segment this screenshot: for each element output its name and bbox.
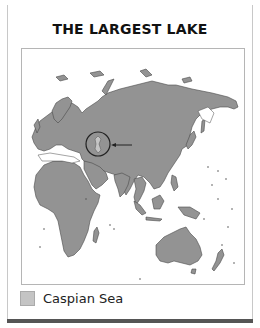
new-guinea	[178, 207, 200, 219]
tasmania	[191, 269, 196, 274]
indian-subcontinent	[114, 173, 130, 197]
legend-label: Caspian Sea	[43, 291, 123, 306]
borneo	[152, 195, 164, 209]
madagascar	[93, 227, 99, 243]
map-title: THE LARGEST LAKE	[0, 21, 260, 37]
new-siberian-islands	[182, 77, 192, 83]
new-zealand	[212, 249, 224, 271]
world-map	[22, 49, 244, 284]
svalbard	[56, 75, 68, 81]
philippines	[171, 175, 178, 191]
sakhalin	[201, 119, 205, 133]
indochina	[134, 177, 146, 205]
australia	[156, 227, 202, 265]
severnaya-zemlya	[140, 69, 152, 77]
franz-josef-land	[90, 71, 104, 77]
legend-swatch-caspian	[20, 291, 35, 306]
java	[146, 217, 162, 221]
legend: Caspian Sea	[20, 290, 123, 306]
sumatra	[134, 201, 146, 215]
bottom-rule	[7, 319, 253, 323]
map-frame	[21, 48, 245, 285]
